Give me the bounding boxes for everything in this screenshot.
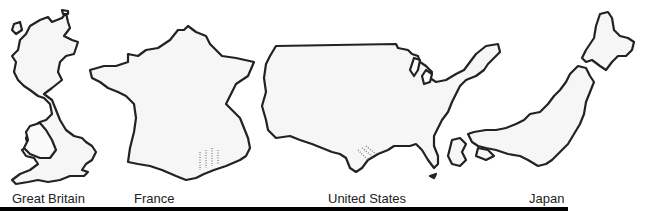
japan-outline bbox=[448, 12, 634, 166]
label-united-states: United States bbox=[328, 191, 406, 206]
label-france: France bbox=[134, 191, 174, 206]
bottom-rule bbox=[0, 207, 568, 211]
france-outline bbox=[90, 26, 254, 180]
label-japan: Japan bbox=[529, 191, 564, 206]
great-britain-outline bbox=[12, 10, 96, 184]
country-comparison-map bbox=[0, 0, 648, 211]
label-great-britain: Great Britain bbox=[12, 191, 85, 206]
